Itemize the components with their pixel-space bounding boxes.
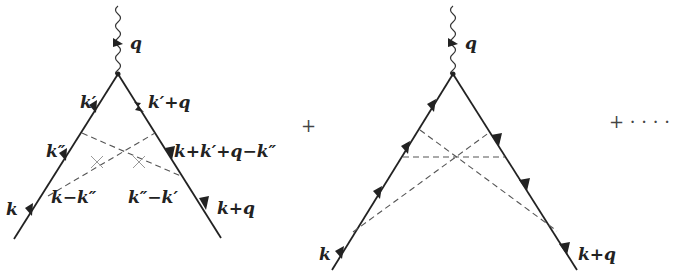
label-upper-left: k′	[80, 92, 97, 112]
fermion-arrow-icon	[519, 178, 530, 191]
interaction-line	[353, 132, 490, 232]
label-outgoing: k+q	[217, 198, 255, 218]
plus-ellipsis-operator: + · · · ·	[609, 111, 670, 132]
label-mid-left: k″	[46, 141, 66, 161]
fermion-arrow-icon	[134, 102, 144, 112]
label-upper-right: k′+q	[148, 92, 191, 112]
label-mid-right: k+k′+q−k″	[174, 141, 276, 161]
label-incoming: k	[6, 199, 18, 219]
diagram-right: q k k+q	[319, 6, 616, 270]
feynman-diagram-canvas: q k′ k′+q k″ k+k′+q−k″ k−k″ k″−k′ k k+q …	[0, 0, 676, 277]
fermion-arrow-icon	[559, 242, 570, 255]
label-incoming: k	[319, 244, 331, 264]
cross-icon	[91, 156, 103, 168]
interaction-line	[420, 130, 557, 231]
label-lower-right-inner: k″−k′	[128, 187, 178, 207]
label-photon-momentum: q	[465, 33, 477, 53]
diagram-left: q k′ k′+q k″ k+k′+q−k″ k−k″ k″−k′ k k+q	[6, 6, 276, 239]
label-outgoing: k+q	[578, 244, 616, 264]
label-lower-left-inner: k−k″	[51, 187, 97, 207]
label-photon-momentum: q	[130, 33, 142, 53]
plus-operator: +	[301, 115, 316, 136]
fermion-right-leg	[453, 74, 577, 270]
fermion-arrow-icon	[199, 196, 209, 210]
